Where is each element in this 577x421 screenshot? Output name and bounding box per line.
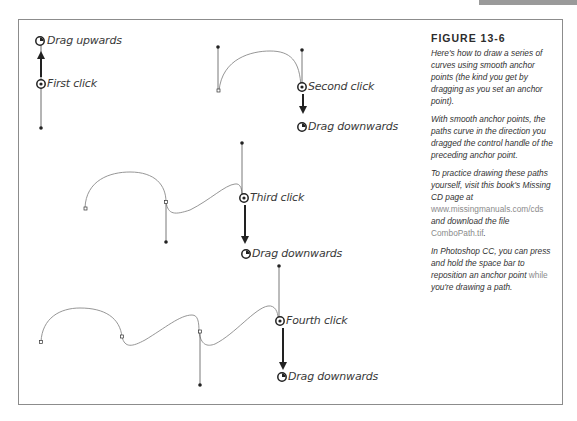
label-drag-downwards-2: Drag downwards (252, 247, 342, 260)
click-target-icon (298, 83, 306, 91)
step4-curve (41, 306, 278, 345)
pen-cursor-icon (242, 250, 250, 258)
label-drag-downwards-3: Drag downwards (288, 370, 378, 383)
practice-text: To practice drawing these paths yourself… (431, 168, 551, 202)
label-third-click: Third click (250, 191, 304, 204)
pen-cursor-icon (36, 37, 44, 45)
file-name: ComboPath.tif (431, 228, 484, 238)
label-drag-upwards: Drag upwards (47, 34, 122, 47)
practice-text: and download the file (431, 216, 509, 226)
figure-caption: FIGURE 13-6 Here's how to draw a series … (431, 32, 556, 299)
pen-cursor-icon (278, 373, 286, 381)
tip-text: you're drawing a path. (431, 282, 512, 292)
step2-diagram (216, 45, 306, 131)
tip-highlight: while (529, 270, 548, 280)
step3-curve (85, 172, 242, 213)
caption-paragraph: With smooth anchor points, the paths cur… (431, 113, 556, 161)
practice-text: . (484, 228, 486, 238)
label-fourth-click: Fourth click (286, 314, 348, 327)
pen-cursor-icon (298, 123, 306, 131)
missing-cd-link[interactable]: www.missingmanuals.com/cds (431, 204, 544, 214)
label-second-click: Second click (308, 80, 374, 93)
caption-paragraph: Here's how to draw a series of curves us… (431, 47, 556, 107)
step4-diagram (40, 267, 287, 387)
click-target-icon (240, 194, 248, 202)
click-target-icon (37, 80, 45, 88)
label-drag-downwards-1: Drag downwards (308, 120, 398, 133)
step2-curve (219, 51, 301, 91)
caption-practice: To practice drawing these paths yourself… (431, 167, 556, 239)
caption-tip: In Photoshop CC, you can press and hold … (431, 245, 556, 293)
label-first-click: First click (47, 77, 97, 90)
step1-handle-end (39, 126, 43, 130)
step1-diagram (36, 37, 45, 130)
click-target-icon (276, 317, 284, 325)
figure-title: FIGURE 13-6 (431, 32, 556, 44)
